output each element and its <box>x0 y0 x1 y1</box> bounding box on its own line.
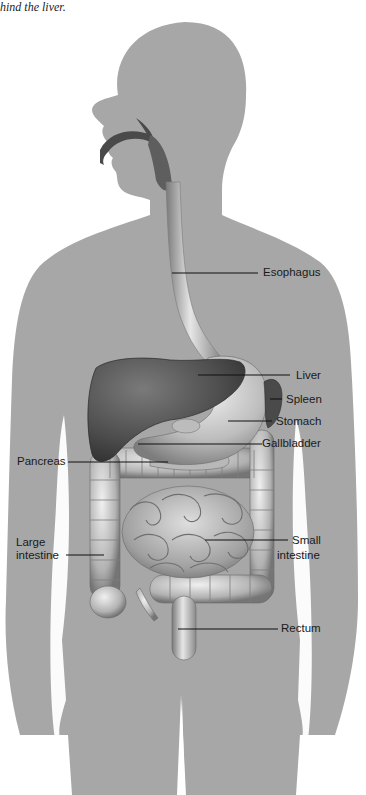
label-esophagus: Esophagus <box>263 266 321 279</box>
label-large-intestine-2: intestine <box>16 549 59 562</box>
label-rectum: Rectum <box>281 622 321 635</box>
label-gallbladder: Gallbladder <box>262 437 321 450</box>
label-spleen: Spleen <box>286 393 322 406</box>
label-pancreas: Pancreas <box>17 455 66 468</box>
label-small-intestine-2: intestine <box>277 549 320 562</box>
label-stomach: Stomach <box>276 415 321 428</box>
label-large-intestine-1: Large <box>16 536 45 549</box>
small-intestine <box>122 486 254 578</box>
label-small-intestine-1: Small <box>292 534 321 547</box>
rectum <box>172 596 196 660</box>
label-liver: Liver <box>296 369 321 382</box>
gallbladder <box>172 419 200 433</box>
